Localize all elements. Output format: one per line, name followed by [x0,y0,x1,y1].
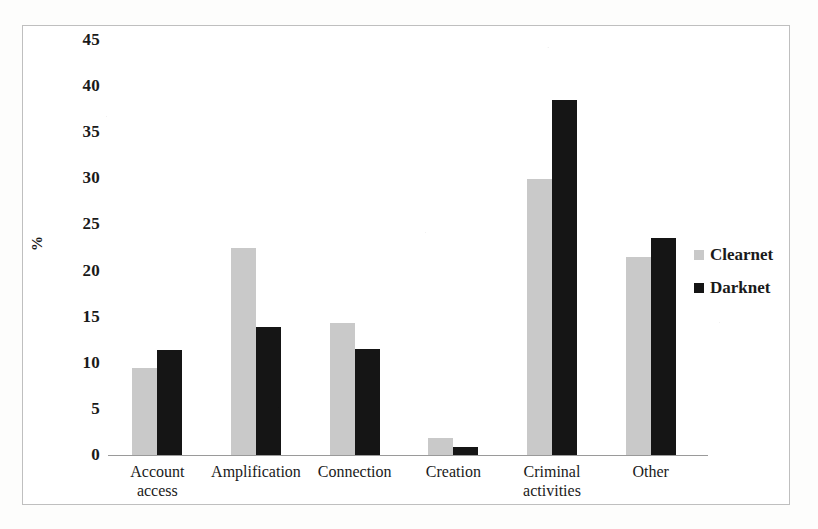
bar-clearnet [428,438,453,455]
y-axis-tick-label: 35 [83,122,100,142]
bar-clearnet [330,323,355,455]
y-axis-tick-label: 20 [83,261,100,281]
y-axis-tick-label: 45 [83,30,100,50]
y-axis-tick-label: 25 [83,214,100,234]
x-axis-category-label: Connection [305,462,404,481]
clearnet-swatch-icon [694,250,704,260]
bar-darknet [453,447,478,455]
legend-item: Darknet [694,271,794,304]
bar-darknet [256,327,281,455]
bar-darknet [157,350,182,455]
y-axis-title: % [29,236,46,251]
x-axis-category-label: Amplification [207,462,306,481]
bar-darknet [355,349,380,455]
x-axis-category-label: Criminal activities [503,462,602,500]
y-axis-tick-label: 40 [83,76,100,96]
plot-area [108,40,700,455]
x-axis-category-label: Other [601,462,700,481]
x-axis-line [108,455,708,456]
bar-group [132,40,182,455]
bar-clearnet [527,179,552,455]
bar-clearnet [132,368,157,455]
darknet-swatch-icon [694,283,704,293]
x-axis-category-label: Creation [404,462,503,481]
bar-clearnet [231,248,256,456]
y-axis-tick-label: 30 [83,168,100,188]
legend-item-label: Darknet [710,278,770,298]
bar-group [330,40,380,455]
y-axis-tick-label: 0 [91,445,100,465]
bar-darknet [651,238,676,455]
y-axis-tick-label: 10 [83,353,100,373]
bar-darknet [552,100,577,455]
bar-clearnet [626,257,651,455]
bar-group [231,40,281,455]
bar-group [626,40,676,455]
bar-group [527,40,577,455]
y-axis-tick-label: 15 [83,307,100,327]
bar-group [428,40,478,455]
scanned-page: 454035302520151050 % Account accessAmpli… [0,0,818,529]
chart-legend: ClearnetDarknet [694,238,794,304]
legend-item-label: Clearnet [710,245,773,265]
x-axis-category-label: Account access [108,462,207,500]
legend-item: Clearnet [694,238,794,271]
y-axis-tick-label: 5 [91,399,100,419]
y-axis-ticks: 454035302520151050 [60,0,100,529]
